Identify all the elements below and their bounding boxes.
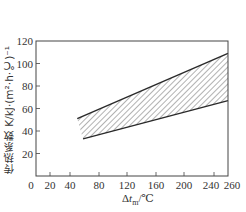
- x-axis-ticks: 0204080120160200240260: [28, 172, 241, 191]
- chart: 0204080120160200240260 20406080100120 Δt…: [0, 0, 246, 212]
- x-tick-label: 120: [119, 179, 136, 191]
- x-tick-label: 40: [65, 179, 77, 191]
- y-tick-label: 20: [22, 148, 34, 160]
- x-tick-label: 160: [148, 179, 165, 191]
- x-tick-label: 20: [45, 179, 57, 191]
- x-tick-label: 80: [94, 179, 106, 191]
- x-tick-label: 200: [176, 179, 193, 191]
- x-tick-label: 260: [224, 179, 241, 191]
- y-axis-label: 传热系数 K/kJ·(m²·h·℃)⁻¹: [1, 40, 17, 180]
- x-axis-label: Δtm/℃: [122, 192, 154, 207]
- y-tick-label: 120: [17, 35, 34, 47]
- y-tick-label: 40: [22, 125, 34, 137]
- x-tick-label: 240: [203, 179, 220, 191]
- plot-area: [77, 53, 228, 139]
- x-tick-label: 0: [28, 179, 34, 191]
- hatched-band: [77, 53, 228, 139]
- y-tick-label: 60: [22, 103, 34, 115]
- y-tick-label: 80: [22, 80, 34, 92]
- y-tick-label: 100: [17, 58, 34, 70]
